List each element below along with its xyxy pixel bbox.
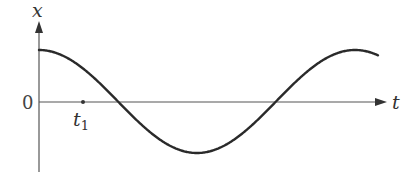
- t-axis-label: t: [392, 91, 400, 113]
- t-axis-arrow-icon: [375, 98, 387, 106]
- origin-label: 0: [22, 92, 33, 113]
- displacement-time-graph: x t 0 t1: [0, 0, 419, 190]
- t1-marker: [81, 100, 85, 104]
- t1-label: t1: [73, 108, 89, 133]
- x-axis-arrow-icon: [35, 21, 43, 33]
- x-axis-label: x: [32, 0, 43, 21]
